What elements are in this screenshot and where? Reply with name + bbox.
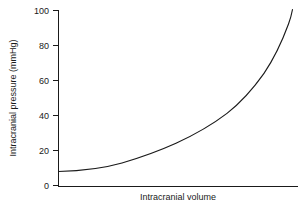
data-series-group xyxy=(59,10,293,172)
x-axis-title: Intracranial volume xyxy=(140,192,216,202)
y-tick-label-100: 100 xyxy=(34,6,49,16)
y-axis-title: Intracranial pressure (mmHg) xyxy=(8,39,18,156)
chart-figure: 100 80 60 40 20 0 Intracranial pressure … xyxy=(0,0,305,209)
y-tick-label-40: 40 xyxy=(39,111,49,121)
y-tick-label-0: 0 xyxy=(44,181,49,191)
y-tick-label-80: 80 xyxy=(39,41,49,51)
x-axis-group: Intracranial volume xyxy=(59,187,299,203)
pressure-volume-chart: 100 80 60 40 20 0 Intracranial pressure … xyxy=(0,0,305,209)
compliance-curve xyxy=(59,10,293,172)
y-axis-group: 100 80 60 40 20 0 Intracranial pressure … xyxy=(8,6,59,191)
y-tick-label-20: 20 xyxy=(39,146,49,156)
y-tick-label-60: 60 xyxy=(39,76,49,86)
